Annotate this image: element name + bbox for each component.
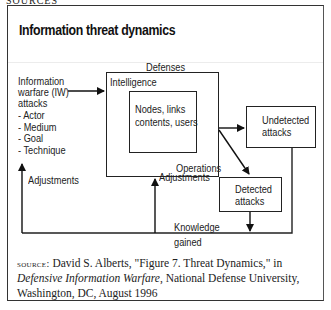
defenses-heading: Defenses (146, 61, 185, 73)
source-work-title: Defensive Information Warfare (17, 272, 160, 284)
attribute-goal: - Goal (18, 132, 43, 144)
adjustments-left-label: Adjustments (28, 174, 79, 186)
attribute-actor: - Actor (18, 109, 45, 121)
detected-line2: attacks (235, 195, 264, 207)
detected-line1: Detected (235, 183, 272, 195)
adjustments-mid-label: Adjustments (159, 171, 210, 183)
source-author: David S. Alberts, "Figure 7. Threat Dyna… (52, 257, 282, 269)
attribute-technique: - Technique (18, 144, 66, 156)
core-assets-line1: Nodes, links (135, 103, 185, 115)
source-citation: source: David S. Alberts, "Figure 7. Thr… (17, 256, 317, 301)
gained-label: gained (174, 236, 202, 248)
knowledge-label: Knowledge (174, 221, 220, 233)
intelligence-label: Intelligence (110, 76, 157, 88)
undetected-line1: Undetected (262, 114, 309, 126)
core-assets-line2: contents, users (135, 116, 198, 128)
source-label: source: (17, 258, 50, 269)
undetected-line2: attacks (262, 126, 291, 138)
iw-attacks-line3: attacks (18, 97, 47, 109)
